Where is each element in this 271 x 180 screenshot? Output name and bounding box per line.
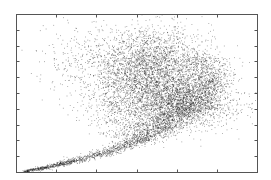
axis-ticks [17, 15, 258, 173]
scatter-points [22, 15, 257, 173]
plot-frame [17, 15, 258, 173]
scatter-chart [0, 0, 271, 180]
